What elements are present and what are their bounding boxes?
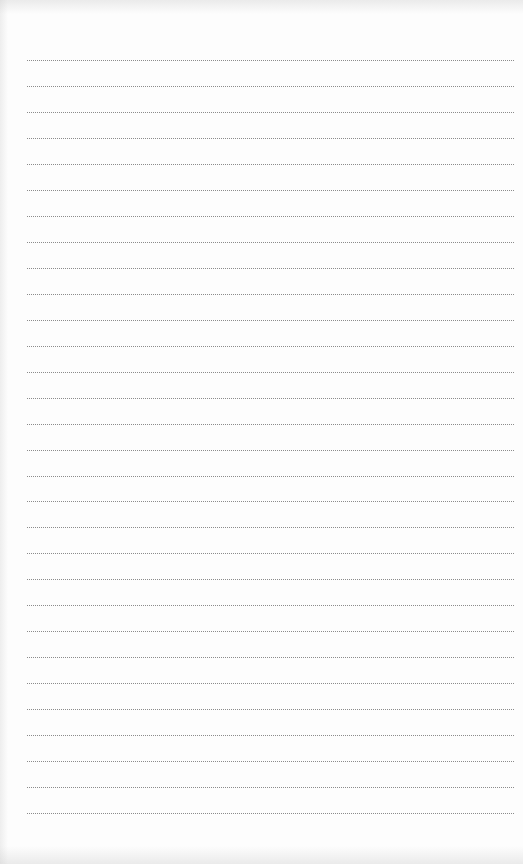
dotted-rule-line — [27, 527, 515, 528]
dotted-rule-line — [27, 242, 515, 243]
dotted-rule-line — [27, 631, 515, 632]
dotted-rule-line — [27, 450, 515, 451]
dotted-rule-line — [27, 60, 515, 61]
dotted-rule-line — [27, 787, 515, 788]
dotted-rule-line — [27, 553, 515, 554]
dotted-rule-line — [27, 216, 515, 217]
dotted-rule-line — [27, 190, 515, 191]
dotted-rule-line — [27, 709, 515, 710]
dotted-rule-line — [27, 294, 515, 295]
dotted-rule-line — [27, 605, 515, 606]
dotted-rule-line — [27, 501, 515, 502]
dotted-rule-line — [27, 813, 515, 814]
dotted-rule-line — [27, 164, 515, 165]
lined-page — [0, 0, 523, 864]
dotted-rule-line — [27, 735, 515, 736]
dotted-rule-line — [27, 657, 515, 658]
dotted-rule-line — [27, 112, 515, 113]
dotted-rule-line — [27, 476, 515, 477]
dotted-rule-line — [27, 86, 515, 87]
dotted-rule-line — [27, 268, 515, 269]
dotted-rule-line — [27, 138, 515, 139]
dotted-rule-line — [27, 398, 515, 399]
dotted-rule-line — [27, 320, 515, 321]
dotted-rule-line — [27, 579, 515, 580]
dotted-rule-line — [27, 683, 515, 684]
dotted-rule-line — [27, 761, 515, 762]
dotted-rule-line — [27, 372, 515, 373]
dotted-rule-line — [27, 424, 515, 425]
dotted-rule-line — [27, 346, 515, 347]
